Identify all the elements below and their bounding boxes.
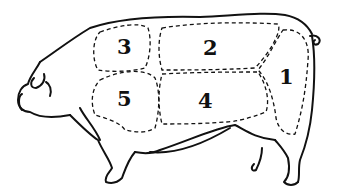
- pig-outline-icon: [0, 0, 338, 195]
- cut-label-1: 1: [279, 66, 294, 87]
- cut-label-4: 4: [198, 90, 213, 111]
- cut-label-2: 2: [203, 37, 218, 58]
- pig-cuts-diagram: 3 2 1 4 5: [0, 0, 338, 195]
- cut-label-5: 5: [117, 88, 132, 109]
- cut-label-3: 3: [117, 36, 132, 57]
